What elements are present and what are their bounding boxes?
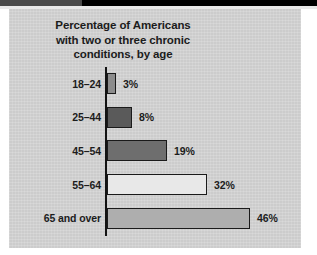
bar-value-label: 8% [139,111,154,123]
category-label: 18–24 [9,78,101,90]
bar-55-64 [107,174,207,195]
bar-18-24 [107,73,116,94]
bar-group: 46% [107,208,278,229]
bar-25-44 [107,107,132,128]
bar-row: 45–54 19% [9,134,301,168]
category-label: 25–44 [9,111,101,123]
bar-row: 25–44 8% [9,101,301,135]
bar-group: 32% [107,174,235,195]
category-label: 45–54 [9,145,101,157]
bar-value-label: 3% [123,78,138,90]
bar-row: 18–24 3% [9,67,301,101]
bar-group: 8% [107,107,154,128]
plot-area: 18–24 3% 25–44 8% 45–54 [9,64,301,244]
chart-title: Percentage of Americans with two or thre… [23,18,223,62]
bar-value-label: 32% [214,179,235,191]
figure-root: Percentage of Americans with two or thre… [0,0,317,255]
chart-title-line-1: Percentage of Americans [23,18,223,33]
chart-title-line-2: with two or three chronic [23,33,223,48]
category-label: 65 and over [9,212,101,224]
bar-value-label: 19% [174,145,195,157]
bar-65-and-over [107,208,250,229]
chart-panel: Percentage of Americans with two or thre… [9,9,301,248]
bar-row: 65 and over 46% [9,201,301,235]
chart-title-line-3: conditions, by age [23,47,223,62]
bar-rows: 18–24 3% 25–44 8% 45–54 [9,67,301,235]
category-label: 55–64 [9,179,101,191]
bar-value-label: 46% [257,212,278,224]
bar-45-54 [107,140,167,161]
bar-row: 55–64 32% [9,168,301,202]
bar-group: 3% [107,73,138,94]
bar-group: 19% [107,140,195,161]
